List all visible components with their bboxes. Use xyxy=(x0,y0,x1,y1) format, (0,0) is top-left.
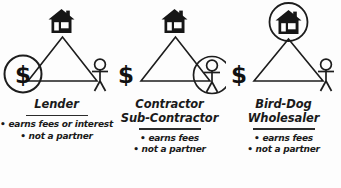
relationship-triangle xyxy=(254,39,323,81)
bullet-line-1: • earns fees xyxy=(227,133,340,145)
bird-dog-figure: $ xyxy=(227,0,340,98)
contractor-figure: $ xyxy=(113,0,226,98)
role-title-line-1: Bird-Dog xyxy=(227,98,340,112)
bullet-line-1: • earns fees xyxy=(113,133,226,145)
role-diagram: $ Lender • earns fees or interest • not … xyxy=(0,0,341,188)
title-divider xyxy=(139,128,201,130)
title-divider xyxy=(26,115,88,117)
role-title-line-1: Contractor xyxy=(113,98,226,112)
panel-lender: $ Lender • earns fees or interest • not … xyxy=(0,0,113,188)
dollar-sign-icon: $ xyxy=(15,62,31,88)
role-title-line-2: Sub-Contractor xyxy=(113,112,226,126)
house-icon xyxy=(276,10,302,34)
bullet-line-2: • not a partner xyxy=(0,131,113,143)
dollar-sign-icon: $ xyxy=(118,62,134,88)
title-divider xyxy=(253,128,315,130)
bullet-line-2: • not a partner xyxy=(113,144,226,156)
role-title-line-1: Lender xyxy=(0,98,113,112)
bird-dog-text-block: Bird-Dog Wholesaler • earns fees • not a… xyxy=(227,98,340,156)
svg-text:$: $ xyxy=(118,62,134,88)
person-icon xyxy=(318,59,334,91)
relationship-triangle xyxy=(141,37,210,81)
lender-figure: $ xyxy=(0,0,113,98)
panel-contractor: $ Contractor Sub-Contractor • earns fees xyxy=(113,0,226,188)
bullet-line-2: • not a partner xyxy=(227,144,340,156)
bullet-line-1: • earns fees or interest xyxy=(0,119,113,131)
house-icon xyxy=(49,9,75,33)
panel-bird-dog: $ Bird-Dog Wholesaler • earns fees • not… xyxy=(227,0,340,188)
house-icon xyxy=(162,9,188,33)
svg-text:$: $ xyxy=(231,62,247,88)
contractor-text-block: Contractor Sub-Contractor • earns fees •… xyxy=(113,98,226,156)
relationship-triangle xyxy=(28,37,97,81)
lender-text-block: Lender • earns fees or interest • not a … xyxy=(0,98,113,142)
person-icon xyxy=(92,59,108,91)
dollar-sign-icon: $ xyxy=(231,62,247,88)
role-title-line-2: Wholesaler xyxy=(227,112,340,126)
person-node-highlight-circle xyxy=(194,57,227,94)
svg-text:$: $ xyxy=(15,62,31,88)
